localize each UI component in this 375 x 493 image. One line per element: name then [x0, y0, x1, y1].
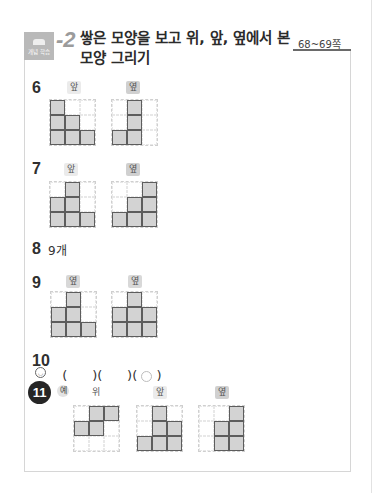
filled-cell	[214, 421, 229, 436]
title-line-1: 쌓은 모양을 보고 위, 앞, 옆에서 본	[80, 28, 290, 48]
front-view-grid	[50, 182, 95, 227]
top-view-grid	[74, 406, 119, 451]
filled-cell	[127, 322, 142, 337]
empty-cell	[104, 421, 119, 436]
content-box-right-border	[350, 50, 351, 471]
filled-cell	[50, 212, 65, 227]
empty-cell	[127, 182, 142, 197]
problem-9-number: 9	[32, 274, 41, 292]
title-line-2: 모양 그리기	[80, 48, 290, 68]
empty-cell	[142, 292, 157, 307]
filled-cell	[127, 115, 142, 130]
filled-cell	[112, 212, 127, 227]
content-box-left-border	[24, 60, 25, 471]
page-title: 쌓은 모양을 보고 위, 앞, 옆에서 본 모양 그리기	[80, 28, 290, 68]
filled-cell	[142, 182, 157, 197]
problem-10-choices: ( )( )( )	[54, 353, 162, 383]
front-view-grid	[137, 406, 182, 451]
front-view-label: 앞	[153, 386, 167, 399]
side-view-grid	[51, 292, 96, 337]
empty-cell	[142, 100, 157, 115]
empty-cell	[74, 406, 89, 421]
filled-cell	[104, 406, 119, 421]
filled-cell	[66, 292, 81, 307]
page-edge-line	[371, 0, 372, 493]
empty-cell	[81, 292, 96, 307]
choice-3[interactable]: ( )	[132, 368, 161, 383]
empty-cell	[137, 421, 152, 436]
top-view-label: 위	[89, 386, 103, 399]
side-view-label: 옆	[215, 386, 229, 399]
filled-cell	[137, 436, 152, 451]
filled-cell	[142, 322, 157, 337]
side-view-label: 옆	[126, 81, 140, 94]
empty-cell	[112, 182, 127, 197]
filled-cell	[127, 292, 142, 307]
choice-1[interactable]: ( )	[62, 368, 97, 383]
badge-icon	[33, 39, 45, 45]
filled-cell	[66, 307, 81, 322]
filled-cell	[127, 100, 142, 115]
filled-cell	[65, 212, 80, 227]
filled-cell	[89, 421, 104, 436]
front-view-label: 앞	[64, 163, 78, 176]
filled-cell	[229, 421, 244, 436]
side-view-label: 옆	[126, 163, 140, 176]
side-view-grid	[112, 292, 157, 337]
empty-cell	[137, 406, 152, 421]
empty-cell	[74, 436, 89, 451]
content-box-bottom-border	[24, 471, 351, 472]
empty-cell	[199, 421, 214, 436]
empty-cell	[142, 130, 157, 145]
page-range: 68~69쪽	[298, 36, 341, 51]
filled-cell	[50, 197, 65, 212]
filled-cell	[74, 421, 89, 436]
empty-cell	[89, 436, 104, 451]
filled-cell	[167, 421, 182, 436]
side-view-label: 옆	[66, 275, 80, 288]
problem-8-answer: 9개	[48, 241, 67, 258]
badge-label: 개념 학습	[28, 48, 51, 56]
empty-cell	[199, 436, 214, 451]
section-number: -2	[56, 27, 76, 53]
filled-cell	[51, 322, 66, 337]
filled-cell	[127, 197, 142, 212]
empty-cell	[81, 307, 96, 322]
circle-answer-mark	[141, 371, 152, 382]
smiley-icon: ◡	[35, 367, 46, 378]
empty-cell	[51, 292, 66, 307]
filled-cell	[65, 115, 80, 130]
filled-cell	[229, 436, 244, 451]
filled-cell	[50, 115, 65, 130]
filled-cell	[51, 307, 66, 322]
filled-cell	[127, 307, 142, 322]
side-view-label: 옆	[128, 275, 142, 288]
filled-cell	[167, 436, 182, 451]
empty-cell	[112, 197, 127, 212]
filled-cell	[152, 421, 167, 436]
empty-cell	[112, 100, 127, 115]
empty-cell	[214, 406, 229, 421]
empty-cell	[50, 182, 65, 197]
filled-cell	[112, 322, 127, 337]
empty-cell	[112, 292, 127, 307]
filled-cell	[127, 130, 142, 145]
filled-cell	[81, 322, 96, 337]
problem-6-number: 6	[32, 79, 41, 97]
filled-cell	[65, 197, 80, 212]
filled-cell	[112, 130, 127, 145]
filled-cell	[80, 130, 95, 145]
choice-2[interactable]: ( )	[97, 368, 132, 383]
filled-cell	[65, 130, 80, 145]
empty-cell	[80, 115, 95, 130]
filled-cell	[214, 436, 229, 451]
filled-cell	[50, 100, 65, 115]
filled-cell	[152, 406, 167, 421]
filled-cell	[142, 212, 157, 227]
example-mark: 예	[57, 385, 69, 397]
filled-cell	[112, 307, 127, 322]
filled-cell	[152, 436, 167, 451]
filled-cell	[66, 322, 81, 337]
filled-cell	[142, 307, 157, 322]
empty-cell	[65, 100, 80, 115]
